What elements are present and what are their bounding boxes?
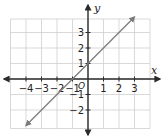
x-tick-label: −3 bbox=[34, 83, 49, 94]
coordinate-graph: −4−3−2−1123−2−1123 x y O bbox=[0, 0, 165, 140]
x-axis-label: x bbox=[151, 64, 158, 77]
x-tick-label: 3 bbox=[131, 83, 137, 94]
y-tick-label: 1 bbox=[78, 58, 84, 69]
y-tick-label: −2 bbox=[69, 105, 84, 116]
origin-label: O bbox=[78, 81, 85, 91]
y-tick-label: 2 bbox=[78, 43, 84, 54]
y-tick-label: 3 bbox=[78, 27, 84, 38]
x-tick-label: −4 bbox=[19, 83, 34, 94]
x-tick-label: 1 bbox=[100, 83, 106, 94]
x-tick-label: 2 bbox=[116, 83, 122, 94]
tick-labels: −4−3−2−1123−2−1123 bbox=[19, 27, 138, 116]
y-axis-label: y bbox=[93, 2, 101, 15]
